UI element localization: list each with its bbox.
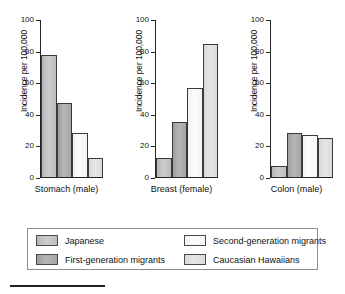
chart-panel-breast: Incidence per 100,000 100 80 60 40 20 0 … [115,8,230,213]
bar-group [156,20,218,177]
y-tick-40: 40 [25,111,34,119]
y-tick-20: 20 [25,142,34,150]
legend-swatch-japanese-icon [36,235,58,246]
legend-label-first-generation-migrants: First-generation migrants [65,255,165,265]
chart-panel-stomach: Incidence per 100,000 100 80 60 40 20 0 … [0,8,115,213]
plot-area: 100 80 60 40 20 0 [40,20,103,178]
legend-row: Japanese Second-generation migrants [28,232,319,249]
bar-caucasian-hawaiians [203,44,219,177]
legend-swatch-first-generation-icon [36,254,58,265]
x-axis-label-breast: Breast (female) [129,184,234,194]
y-tick-100: 100 [136,16,149,24]
bar-japanese [41,55,57,177]
bar-japanese [156,158,172,177]
y-tick-80: 80 [140,48,149,56]
y-tick-20: 20 [140,142,149,150]
bottom-rule [10,285,105,287]
legend-label-japanese: Japanese [65,236,104,246]
bar-first-generation-migrants [287,133,303,177]
bar-japanese [271,166,287,177]
y-tick-0: 0 [30,174,34,182]
y-tick-20: 20 [255,142,264,150]
bar-caucasian-hawaiians [88,158,104,177]
y-tick-100: 100 [21,16,34,24]
bar-caucasian-hawaiians [318,138,334,177]
y-tick-40: 40 [255,111,264,119]
y-tick-60: 60 [255,79,264,87]
y-tick-100: 100 [251,16,264,24]
bar-group [271,20,333,177]
legend-swatch-second-generation-icon [184,235,206,246]
legend-item-second-generation-migrants: Second-generation migrants [176,232,319,249]
y-tick-0: 0 [145,174,149,182]
y-tick-80: 80 [25,48,34,56]
bar-chart-panels: Incidence per 100,000 100 80 60 40 20 0 … [0,8,345,213]
plot-area: 100 80 60 40 20 0 [155,20,218,178]
legend-item-first-generation-migrants: First-generation migrants [28,251,176,268]
legend-row: First-generation migrants Caucasian Hawa… [28,251,319,268]
chart-panel-colon: Incidence per 100,000 100 80 60 40 20 0 … [230,8,345,213]
y-tick-40: 40 [140,111,149,119]
y-tick-60: 60 [140,79,149,87]
y-tick-60: 60 [25,79,34,87]
plot-area: 100 80 60 40 20 0 [270,20,333,178]
bar-group [41,20,103,177]
bar-second-generation-migrants [302,135,318,177]
bar-first-generation-migrants [172,122,188,177]
chart-legend: Japanese Second-generation migrants Firs… [27,228,318,270]
legend-label-caucasian-hawaiians: Caucasian Hawaiians [213,255,300,265]
x-axis-baseline [155,177,218,178]
y-tick-0: 0 [260,174,264,182]
x-axis-label-stomach: Stomach (male) [14,184,119,194]
x-axis-label-colon: Colon (male) [244,184,345,194]
x-axis-baseline [40,177,103,178]
legend-swatch-caucasian-hawaiians-icon [184,254,206,265]
bar-second-generation-migrants [72,133,88,177]
y-tick-80: 80 [255,48,264,56]
bar-second-generation-migrants [187,88,203,177]
legend-label-second-generation-migrants: Second-generation migrants [213,236,326,246]
bar-first-generation-migrants [57,103,73,177]
legend-item-caucasian-hawaiians: Caucasian Hawaiians [176,251,319,268]
x-axis-baseline [270,177,333,178]
legend-item-japanese: Japanese [28,232,176,249]
